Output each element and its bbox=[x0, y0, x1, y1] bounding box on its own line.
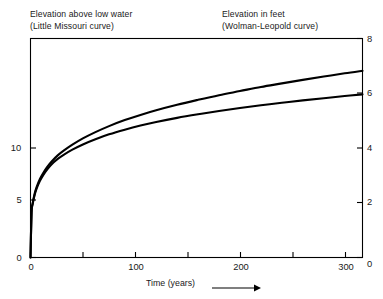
x-tick-label-100: 100 bbox=[122, 261, 150, 272]
x-axis-ticks bbox=[31, 252, 346, 258]
x-axis-title: Time (years) bbox=[146, 278, 195, 288]
right-tick-label-0: 0 bbox=[367, 258, 379, 269]
right-tick-label-8: 8 bbox=[367, 33, 379, 44]
x-tick-label-0: 0 bbox=[23, 261, 39, 272]
right-tick-label-6: 6 bbox=[367, 87, 379, 98]
curve-little-missouri bbox=[31, 94, 363, 257]
plot-svg bbox=[0, 0, 383, 299]
right-arrow-icon bbox=[212, 283, 264, 293]
x-tick-label-300: 300 bbox=[332, 261, 360, 272]
right-tick-label-2: 2 bbox=[367, 196, 379, 207]
right-tick-label-4: 4 bbox=[367, 142, 379, 153]
chart-figure: Elevation above low water (Little Missou… bbox=[0, 0, 383, 299]
left-tick-label-10: 10 bbox=[6, 142, 26, 153]
plot-frame bbox=[31, 39, 363, 258]
x-tick-label-200: 200 bbox=[227, 261, 255, 272]
left-tick-label-5: 5 bbox=[12, 194, 26, 205]
